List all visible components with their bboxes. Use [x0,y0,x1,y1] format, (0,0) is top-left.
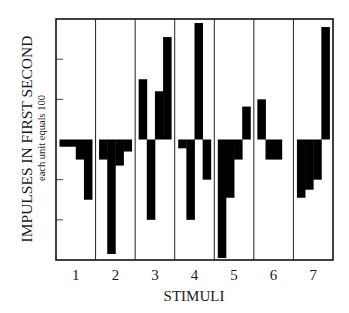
bar-stim5-3 [234,140,243,160]
x-axis-label: STIMULI [164,288,225,304]
bar-stim4-1 [178,140,187,149]
chart: 1234567 IMPULSES IN FIRST SECOND each un… [0,0,349,313]
bar-stim2-4 [124,140,133,152]
bar-stim7-4 [321,27,330,139]
bar-stim3-4 [163,37,172,139]
bar-stim3-1 [139,79,148,139]
y-axis-sublabel: each unit equals 100 [36,95,47,181]
bar-stim6-1 [257,99,266,139]
bar-stim1-3 [84,140,93,200]
bar-stim5-1 [218,140,227,258]
bar-stim5-2 [226,140,235,198]
bar-stim2-3 [115,140,124,166]
x-tick-label-2: 2 [112,267,120,283]
x-tick-label-6: 6 [270,267,278,283]
x-tick-label-5: 5 [230,267,238,283]
bar-stim7-1 [297,140,306,198]
y-axis-label: IMPULSES IN FIRST SECOND [18,36,35,243]
x-tick-label-1: 1 [72,267,80,283]
bar-stim1-2 [76,140,85,160]
bar-stim5-4 [242,107,251,140]
bar-stim6-2 [266,140,283,160]
x-tick-label-7: 7 [309,267,317,283]
bars-layer [60,23,330,258]
bar-stim7-2 [305,140,314,190]
x-tick-labels: 1234567 [72,267,317,283]
bar-stim2-2 [107,140,116,254]
x-tick-label-4: 4 [191,267,199,283]
bar-stim4-2 [186,140,195,220]
bar-stim7-3 [313,140,322,180]
bar-stim1-1 [60,140,77,147]
bar-stim4-3 [195,23,204,139]
bar-stim3-2 [147,140,156,220]
bar-stim4-4 [203,140,212,180]
bar-stim2-1 [99,140,108,160]
bar-stim3-3 [155,91,164,139]
x-tick-label-3: 3 [151,267,159,283]
